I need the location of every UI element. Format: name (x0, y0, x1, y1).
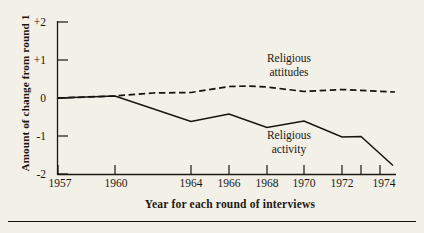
x-axis-title: Year for each round of interviews (55, 198, 405, 210)
x-tick-label-1974: 1974 (362, 177, 406, 189)
series-annotation-activity-line1: Religious (257, 129, 321, 143)
x-tick-label-1960: 1960 (94, 177, 138, 189)
chart-figure: Amount of change from round 1 +2 +1 0 -1… (0, 0, 424, 233)
x-tick-label-1972: 1972 (320, 177, 364, 189)
series-annotation-religious-activity: Religious activity (257, 129, 321, 156)
series-annotation-activity-line2: activity (257, 143, 321, 157)
bottom-divider (8, 221, 416, 222)
x-tick-label-1957: 1957 (38, 177, 82, 189)
series-annotation-attitudes-line2: attitudes (257, 66, 321, 80)
series-line-religious-activity (58, 96, 393, 166)
series-annotation-attitudes-line1: Religious (257, 52, 321, 66)
x-axis-ticks (58, 165, 380, 174)
series-annotation-religious-attitudes: Religious attitudes (257, 52, 321, 79)
